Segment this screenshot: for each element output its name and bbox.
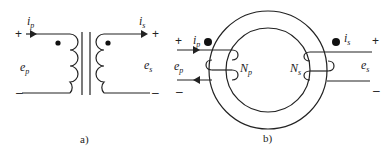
primary-polarity-dot-icon bbox=[204, 38, 212, 46]
secondary-plus-sign: + bbox=[372, 34, 379, 48]
primary-voltage-label: ep bbox=[174, 59, 183, 75]
primary-current-label: ip bbox=[193, 33, 200, 49]
primary-winding-loop-upper bbox=[232, 50, 238, 60]
secondary-winding-loop-outer bbox=[328, 61, 334, 71]
primary-winding-loop-lower bbox=[232, 70, 238, 80]
secondary-current-label: is bbox=[139, 14, 145, 30]
figure-a-ideal-transformer-symbol: + – + – ip is ep es a) bbox=[15, 14, 159, 146]
primary-coil-icon bbox=[70, 34, 78, 93]
primary-current-label: ip bbox=[27, 14, 34, 30]
primary-polarity-dot-icon bbox=[55, 40, 60, 45]
secondary-minus-sign: – bbox=[152, 86, 159, 100]
figure-a-caption: a) bbox=[80, 133, 89, 146]
secondary-coil-icon bbox=[96, 34, 104, 93]
secondary-voltage-label: es bbox=[361, 58, 369, 74]
secondary-plus-sign: + bbox=[152, 27, 159, 41]
primary-minus-sign: – bbox=[176, 85, 183, 99]
secondary-current-label: is bbox=[344, 31, 350, 47]
primary-plus-sign: + bbox=[15, 27, 22, 41]
primary-voltage-label: ep bbox=[20, 60, 29, 76]
secondary-voltage-label: es bbox=[144, 58, 152, 74]
transformer-diagrams: + – + – ip is ep es a) + bbox=[0, 0, 387, 155]
primary-minus-sign: – bbox=[16, 86, 23, 100]
figure-b-toroidal-transformer: + – + – ip is ep es Np Ns b) bbox=[174, 11, 380, 145]
secondary-polarity-dot-icon bbox=[332, 38, 340, 46]
primary-plus-sign: + bbox=[175, 34, 182, 48]
secondary-polarity-dot-icon bbox=[105, 40, 110, 45]
secondary-current-arrow-icon bbox=[141, 30, 148, 38]
primary-current-arrow-icon bbox=[30, 30, 37, 38]
primary-return-arrow-icon bbox=[193, 76, 200, 84]
primary-turns-label: Np bbox=[239, 61, 252, 77]
secondary-minus-sign: – bbox=[373, 84, 380, 98]
secondary-turns-label: Ns bbox=[289, 61, 301, 77]
figure-b-caption: b) bbox=[263, 132, 273, 145]
